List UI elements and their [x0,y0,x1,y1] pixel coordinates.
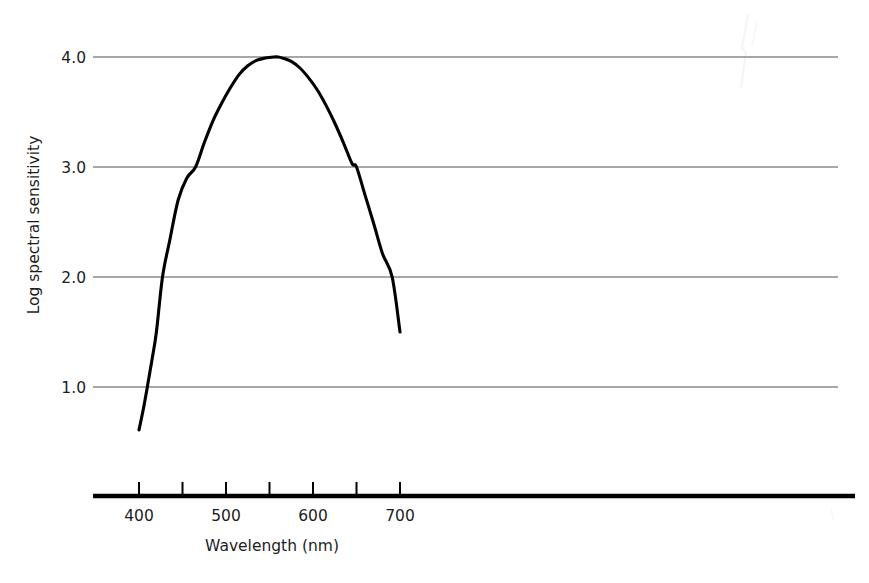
x-axis-tick-labels: 400 500 600 700 [124,507,415,525]
x-tick-label-600: 600 [298,507,328,525]
spectral-sensitivity-chart: 4.0 3.0 2.0 1.0 Log spectral sensitivity… [0,0,869,583]
gridlines [93,57,838,387]
x-tick-label-500: 500 [211,507,241,525]
scan-artifact [741,14,833,520]
x-axis-title: Wavelength (nm) [205,537,339,555]
y-tick-label-2: 2.0 [61,269,86,287]
y-axis-tick-labels: 4.0 3.0 2.0 1.0 [61,49,86,397]
y-tick-label-1: 1.0 [61,379,86,397]
y-axis-title: Log spectral sensitivity [25,136,43,315]
y-tick-label-3: 3.0 [61,159,86,177]
x-tick-label-400: 400 [124,507,154,525]
spectral-sensitivity-curve [139,57,400,430]
chart-figure: 4.0 3.0 2.0 1.0 Log spectral sensitivity… [0,0,869,583]
x-tick-label-700: 700 [385,507,415,525]
y-tick-label-4: 4.0 [61,49,86,67]
